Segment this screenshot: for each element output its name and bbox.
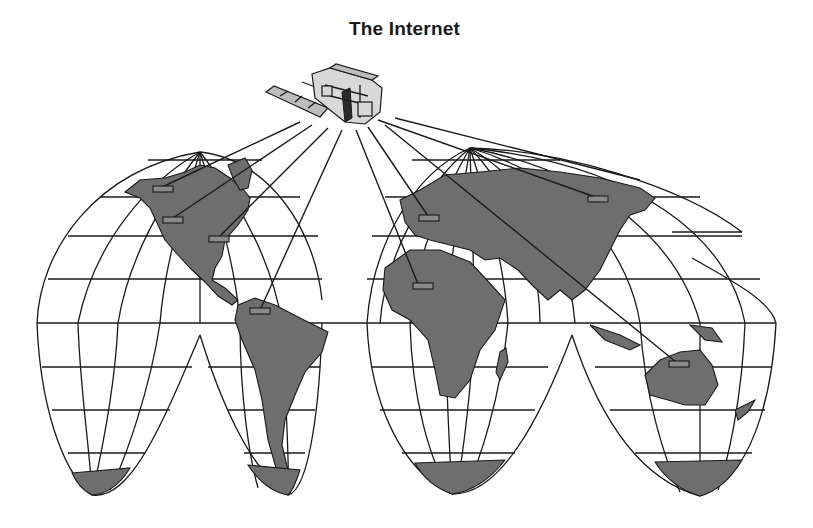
africa [383, 250, 505, 398]
satellite-icon [266, 64, 382, 124]
node-alaska-west-canada [153, 186, 173, 192]
node-northern-south-america [250, 308, 270, 314]
world-map-illustration [0, 0, 813, 528]
australia [645, 350, 718, 405]
antarctica-4 [655, 460, 742, 496]
indonesia [590, 325, 640, 350]
new-guinea [690, 325, 722, 342]
node-western-europe [419, 215, 439, 221]
madagascar [496, 348, 508, 380]
land-masses [72, 158, 755, 496]
node-western-usa [163, 217, 183, 223]
north-america [125, 165, 250, 305]
node-west-africa [413, 283, 433, 289]
node-northern-australia [669, 361, 689, 367]
antarctica-1 [72, 468, 130, 495]
node-siberia [588, 196, 608, 202]
node-eastern-usa [209, 236, 229, 242]
